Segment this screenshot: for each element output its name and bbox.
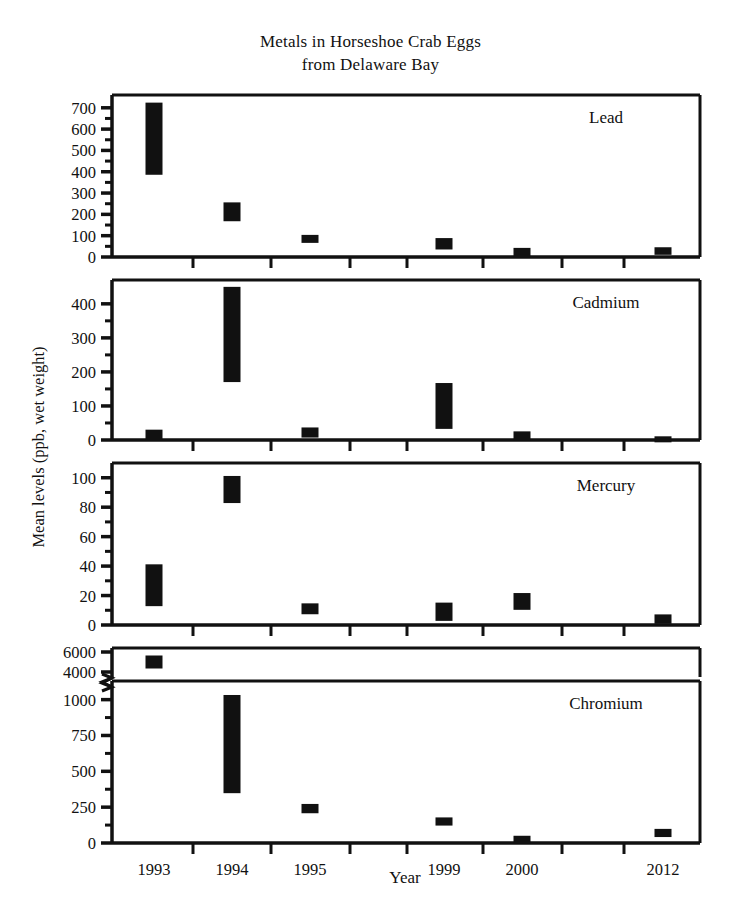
svg-text:0: 0 [88, 834, 96, 853]
datapoint-mercury-1993 [146, 564, 163, 606]
datapoint-mercury-2000 [514, 593, 531, 610]
datapoint-lead-1999 [436, 238, 453, 249]
svg-text:0: 0 [88, 248, 96, 267]
datapoint-cadmium-1994 [224, 287, 241, 382]
svg-text:1999: 1999 [428, 860, 461, 879]
datapoint-lead-1993 [146, 103, 163, 175]
datapoint-lead-1995 [302, 235, 319, 243]
datapoint-cadmium-2012 [655, 436, 672, 442]
svg-text:6000: 6000 [63, 643, 96, 662]
figure: Metals in Horseshoe Crab Eggs from Delaw… [0, 0, 741, 916]
svg-text:1994: 1994 [216, 860, 249, 879]
panel-frame-chromium-upper [112, 648, 700, 677]
datapoint-chromium-2000 [514, 836, 531, 843]
svg-text:0: 0 [88, 616, 96, 635]
datapoint-cadmium-1999 [436, 383, 453, 429]
svg-text:500: 500 [71, 141, 96, 160]
svg-text:2000: 2000 [506, 860, 539, 879]
y-axis-ticks-1: 0100200300400 [71, 295, 112, 450]
svg-text:20: 20 [80, 587, 97, 606]
datapoint-chromium-2012 [655, 829, 672, 837]
datapoint-lead-1994 [224, 202, 241, 221]
panel-label-cadmium: Cadmium [572, 293, 639, 312]
panel-label-lead: Lead [589, 108, 623, 127]
datapoint-lead-2012 [655, 247, 672, 255]
y-axis-ticks-3: 02505007501000 [63, 691, 112, 853]
svg-text:300: 300 [71, 329, 96, 348]
svg-text:200: 200 [71, 363, 96, 382]
svg-text:750: 750 [71, 726, 96, 745]
svg-text:4000: 4000 [63, 663, 96, 682]
svg-text:1993: 1993 [138, 860, 171, 879]
panel-label-chromium: Chromium [569, 694, 643, 713]
svg-text:2012: 2012 [647, 860, 680, 879]
svg-text:400: 400 [71, 295, 96, 314]
svg-text:100: 100 [71, 469, 96, 488]
datapoint-chromium-1994 [224, 695, 241, 793]
datapoint-mercury-1995 [302, 603, 319, 614]
datapoint-chromium-1995 [302, 804, 319, 813]
datapoint-mercury-1994 [224, 476, 241, 503]
svg-text:300: 300 [71, 184, 96, 203]
datapoint-lead-2000 [514, 248, 531, 258]
svg-text:1000: 1000 [63, 691, 96, 710]
plot-area: 0100200300400500600700Lead0100200300400C… [0, 0, 741, 916]
y-axis-ticks-0: 0100200300400500600700 [71, 99, 112, 267]
panel-label-mercury: Mercury [577, 476, 636, 495]
svg-text:250: 250 [71, 798, 96, 817]
svg-text:1995: 1995 [294, 860, 327, 879]
svg-text:600: 600 [71, 120, 96, 139]
svg-text:700: 700 [71, 99, 96, 118]
datapoint-cadmium-2000 [514, 431, 531, 440]
datapoint-cadmium-1993 [146, 430, 163, 440]
x-axis-tick-labels: 199319941995199920002012 [138, 860, 680, 879]
svg-text:200: 200 [71, 205, 96, 224]
datapoint-cadmium-1995 [302, 427, 319, 437]
svg-text:80: 80 [80, 498, 97, 517]
svg-text:100: 100 [71, 397, 96, 416]
svg-text:100: 100 [71, 227, 96, 246]
datapoint-mercury-2012 [655, 614, 672, 623]
datapoint-chromium-1999 [436, 817, 453, 825]
y-axis-ticks-2: 020406080100 [71, 469, 112, 635]
datapoint-mercury-1999 [436, 603, 453, 621]
datapoint-chromium-1993 [146, 656, 163, 669]
svg-text:40: 40 [80, 557, 97, 576]
svg-text:0: 0 [88, 431, 96, 450]
svg-text:500: 500 [71, 762, 96, 781]
svg-text:60: 60 [80, 528, 97, 547]
svg-text:400: 400 [71, 163, 96, 182]
